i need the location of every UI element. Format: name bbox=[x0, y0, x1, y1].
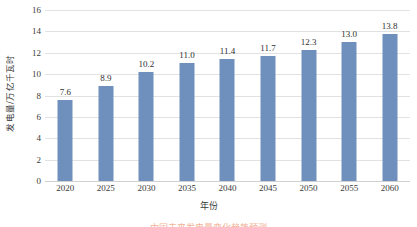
y-tick-label: 8 bbox=[1, 91, 41, 101]
bar-group: 11.4 bbox=[207, 10, 248, 181]
x-tick-label: 2025 bbox=[97, 183, 115, 193]
bar[interactable] bbox=[220, 59, 235, 181]
y-tick-label: 0 bbox=[1, 176, 41, 186]
x-tick-label: 2050 bbox=[300, 183, 318, 193]
x-axis-title: 年份 bbox=[0, 199, 417, 212]
bar-value-label: 8.9 bbox=[100, 73, 111, 83]
bar-value-label: 10.2 bbox=[139, 59, 155, 69]
bar-group: 10.2 bbox=[126, 10, 167, 181]
bar-group: 12.3 bbox=[288, 10, 329, 181]
x-axis-title-text: 年份 bbox=[200, 201, 218, 211]
y-tick-label: 12 bbox=[1, 48, 41, 58]
bar[interactable] bbox=[179, 63, 194, 181]
x-tick-label: 2040 bbox=[219, 183, 237, 193]
y-axis-tick-labels: 0246810121416 bbox=[0, 10, 41, 181]
bar-value-label: 12.3 bbox=[301, 37, 317, 47]
bar[interactable] bbox=[301, 50, 316, 181]
bar-value-label: 11.0 bbox=[179, 50, 194, 60]
bar-value-label: 11.4 bbox=[220, 46, 235, 56]
bar[interactable] bbox=[139, 72, 154, 181]
y-tick-label: 16 bbox=[1, 5, 41, 15]
bar-value-label: 13.0 bbox=[341, 29, 357, 39]
bar[interactable] bbox=[98, 86, 113, 181]
bar-value-label: 11.7 bbox=[260, 43, 275, 53]
x-tick-label: 2030 bbox=[137, 183, 155, 193]
x-tick-label: 2055 bbox=[340, 183, 358, 193]
figure-caption: 中国未来发电量变化趋势预测 bbox=[0, 218, 417, 227]
x-tick-label: 2035 bbox=[178, 183, 196, 193]
bar[interactable] bbox=[58, 100, 73, 181]
bar-value-label: 7.6 bbox=[60, 87, 71, 97]
y-tick-label: 4 bbox=[1, 133, 41, 143]
y-tick-label: 6 bbox=[1, 112, 41, 122]
x-tick-label: 2020 bbox=[56, 183, 74, 193]
bar-group: 11.7 bbox=[248, 10, 289, 181]
bar-chart-figure: 发电量/万亿千瓦时 0246810121416 7.68.910.211.011… bbox=[0, 0, 417, 227]
bar-group: 7.6 bbox=[45, 10, 86, 181]
bar-group: 13.8 bbox=[369, 10, 410, 181]
y-tick-label: 10 bbox=[1, 69, 41, 79]
bar-group: 13.0 bbox=[329, 10, 370, 181]
bar[interactable] bbox=[261, 56, 276, 181]
bars-layer: 7.68.910.211.011.411.712.313.013.8 bbox=[45, 10, 410, 181]
bar-value-label: 13.8 bbox=[382, 21, 398, 31]
x-axis-tick-labels: 202020252030203520402045205020552060 bbox=[45, 183, 410, 197]
y-tick-label: 14 bbox=[1, 26, 41, 36]
plot-area: 7.68.910.211.011.411.712.313.013.8 bbox=[45, 10, 410, 181]
y-tick-label: 2 bbox=[1, 155, 41, 165]
bar[interactable] bbox=[382, 34, 397, 181]
bar-group: 11.0 bbox=[167, 10, 208, 181]
bar-group: 8.9 bbox=[86, 10, 127, 181]
gridline bbox=[45, 181, 410, 182]
bar[interactable] bbox=[342, 42, 357, 181]
x-tick-label: 2060 bbox=[381, 183, 399, 193]
x-tick-label: 2045 bbox=[259, 183, 277, 193]
figure-caption-text: 中国未来发电量变化趋势预测 bbox=[150, 221, 267, 227]
